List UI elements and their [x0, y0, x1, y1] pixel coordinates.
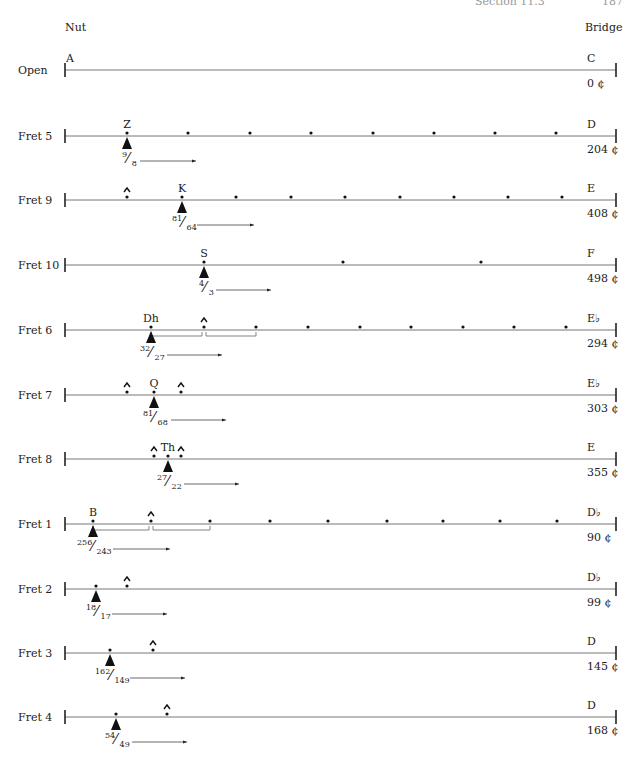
- fret-dot: [108, 648, 111, 651]
- note-name: D: [587, 635, 596, 648]
- fret-dot: [326, 519, 329, 522]
- ratio-numerator: 162: [95, 667, 110, 676]
- caret-dot: [165, 712, 168, 715]
- fret-dot: [208, 519, 211, 522]
- fret-dot: [385, 519, 388, 522]
- string-row: Fret 8E355 ¢Th27⁄22: [18, 441, 619, 491]
- note-name: E♭: [587, 377, 600, 390]
- ratio-denominator: 149: [114, 676, 129, 685]
- ratio-denominator: 243: [96, 547, 111, 556]
- position-label: Th: [161, 441, 175, 454]
- string-row: Fret 6E♭294 ¢Dh32⁄27: [18, 312, 619, 362]
- fret-dot: [409, 325, 412, 328]
- fret-dot: [555, 519, 558, 522]
- caret-dot: [151, 648, 154, 651]
- fret-dot: [461, 325, 464, 328]
- note-name: D♭: [587, 506, 601, 519]
- cents-value: 498 ¢: [587, 272, 619, 285]
- up-caret-icon: [124, 383, 130, 387]
- running-header-section: Section 11.3: [475, 0, 545, 8]
- fret-dot: [493, 131, 496, 134]
- fret-dot: [512, 325, 515, 328]
- cents-value: 355 ¢: [587, 466, 619, 479]
- row-label: Fret 1: [18, 518, 52, 531]
- row-label: Fret 8: [18, 453, 52, 466]
- fret-marker-triangle-icon: [199, 266, 209, 278]
- ratio-denominator: 8: [132, 159, 137, 168]
- cents-value: 99 ¢: [587, 596, 612, 609]
- fret-dot: [452, 195, 455, 198]
- cents-value: 90 ¢: [587, 531, 612, 544]
- string-row: Fret 3D145 ¢162⁄149: [18, 635, 619, 685]
- string-row: OpenC0 ¢A: [18, 52, 616, 90]
- ratio-denominator: 49: [120, 740, 130, 749]
- string-row: Fret 7E♭303 ¢Q81⁄68: [18, 377, 619, 427]
- note-name: D: [587, 118, 596, 131]
- cents-value: 294 ¢: [587, 337, 619, 350]
- row-label: Fret 9: [18, 194, 52, 207]
- row-label: Fret 4: [18, 711, 52, 724]
- position-label: Dh: [143, 312, 159, 325]
- cents-value: 168 ¢: [587, 724, 619, 737]
- position-label: B: [89, 506, 97, 519]
- note-name: F: [587, 247, 595, 260]
- fret-diagram: Section 11.3 187 Nut Bridge OpenC0 ¢AFre…: [0, 0, 635, 758]
- fret-dot: [234, 195, 237, 198]
- cents-value: 204 ¢: [587, 143, 619, 156]
- nut-label: Nut: [65, 21, 87, 34]
- fret-marker-triangle-icon: [122, 137, 132, 149]
- up-caret-icon: [124, 188, 130, 192]
- bridge-label: Bridge: [585, 21, 622, 34]
- position-label: Q: [149, 377, 158, 390]
- fret-dot: [479, 260, 482, 263]
- fret-dot: [254, 325, 257, 328]
- up-caret-icon: [151, 447, 157, 451]
- interval-bracket: [93, 526, 149, 530]
- position-label: K: [178, 182, 187, 195]
- caret-dot: [125, 390, 128, 393]
- fret-dot: [306, 325, 309, 328]
- note-name: E♭: [587, 312, 600, 325]
- fret-dot: [309, 131, 312, 134]
- fret-dot: [149, 325, 152, 328]
- row-label: Fret 6: [18, 324, 52, 337]
- fret-dot: [371, 131, 374, 134]
- fret-marker-triangle-icon: [91, 590, 101, 602]
- fret-dot: [358, 325, 361, 328]
- fret-marker-triangle-icon: [105, 654, 115, 666]
- string-row: Fret 9E408 ¢K81⁄64: [18, 182, 619, 232]
- ratio-denominator: 3: [209, 288, 214, 297]
- caret-dot: [125, 195, 128, 198]
- ratio-numerator: 256: [77, 538, 92, 547]
- fret-dot: [268, 519, 271, 522]
- interval-bracket: [206, 332, 256, 336]
- note-name: E: [587, 182, 595, 195]
- string-row: Fret 4D168 ¢54⁄49: [18, 699, 619, 749]
- fret-dot: [166, 454, 169, 457]
- cents-value: 0 ¢: [587, 77, 605, 90]
- cents-value: 145 ¢: [587, 660, 619, 673]
- up-caret-icon: [124, 577, 130, 581]
- string-rows: OpenC0 ¢AFret 5D204 ¢Z9⁄8Fret 9E408 ¢K81…: [18, 52, 619, 749]
- string-row: Fret 1D♭90 ¢B256⁄243: [18, 506, 616, 556]
- fret-marker-triangle-icon: [111, 718, 121, 730]
- note-name: E: [587, 441, 595, 454]
- ratio-denominator: 22: [172, 482, 182, 491]
- row-label: Fret 3: [18, 647, 52, 660]
- row-label: Fret 2: [18, 583, 52, 596]
- fret-dot: [248, 131, 251, 134]
- fret-marker-triangle-icon: [163, 460, 173, 472]
- row-label: Open: [18, 64, 48, 77]
- position-label: Z: [123, 118, 131, 131]
- note-name: D: [587, 699, 596, 712]
- fret-dot: [341, 260, 344, 263]
- interval-bracket: [151, 332, 202, 336]
- interval-bracket: [153, 526, 210, 530]
- fret-dot: [564, 325, 567, 328]
- fret-dot: [398, 195, 401, 198]
- up-caret-icon: [150, 641, 156, 645]
- ratio-denominator: 17: [101, 612, 111, 621]
- fret-dot: [186, 131, 189, 134]
- caret-dot: [152, 454, 155, 457]
- row-label: Fret 7: [18, 389, 52, 402]
